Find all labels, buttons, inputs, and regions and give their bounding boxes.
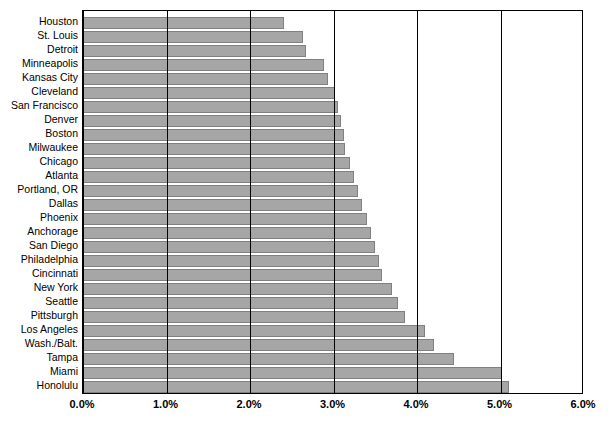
bar-cleveland[interactable] [83,87,335,99]
bar-chicago[interactable] [83,157,350,169]
category-label-dallas: Dallas [0,198,78,209]
x-tick-label-6.0%: 6.0% [570,398,595,410]
bar-row [83,73,582,85]
bar-dallas[interactable] [83,199,362,211]
bar-minneapolis[interactable] [83,59,324,71]
bar-row [83,157,582,169]
category-label-san-diego: San Diego [0,240,78,251]
category-axis-labels: HoustonSt. LouisDetroitMinneapolisKansas… [0,10,78,394]
bar-atlanta[interactable] [83,171,354,183]
bar-san-francisco[interactable] [83,101,338,113]
x-tick-label-3.0%: 3.0% [320,398,345,410]
bar-row [83,339,582,351]
category-label-cincinnati: Cincinnati [0,268,78,279]
bar-row [83,101,582,113]
category-label-denver: Denver [0,114,78,125]
bar-boston[interactable] [83,129,344,141]
value-axis-labels: 0.0%1.0%2.0%3.0%4.0%5.0%6.0% [0,398,610,418]
bar-detroit[interactable] [83,45,306,57]
bar-row [83,87,582,99]
bar-row [83,297,582,309]
bar-row [83,367,582,379]
x-tick-label-5.0%: 5.0% [487,398,512,410]
category-label-new-york: New York [0,282,78,293]
category-label-tampa: Tampa [0,352,78,363]
bar-denver[interactable] [83,115,341,127]
bar-chart: HoustonSt. LouisDetroitMinneapolisKansas… [0,0,610,426]
category-label-st-louis: St. Louis [0,30,78,41]
bar-st-louis[interactable] [83,31,303,43]
bar-seattle[interactable] [83,297,398,309]
bar-row [83,185,582,197]
bar-row [83,381,582,393]
category-label-miami: Miami [0,366,78,377]
bar-tampa[interactable] [83,353,454,365]
bar-row [83,213,582,225]
category-label-phoenix: Phoenix [0,212,78,223]
category-label-cleveland: Cleveland [0,86,78,97]
bar-row [83,311,582,323]
bar-philadelphia[interactable] [83,255,379,267]
bar-wash-balt[interactable] [83,339,434,351]
category-label-philadelphia: Philadelphia [0,254,78,265]
bar-row [83,143,582,155]
bar-kansas-city[interactable] [83,73,328,85]
category-label-houston: Houston [0,16,78,27]
bar-houston[interactable] [83,17,284,29]
category-label-wash-balt: Wash./Balt. [0,338,78,349]
bar-row [83,31,582,43]
bar-row [83,59,582,71]
bar-milwaukee[interactable] [83,143,345,155]
bar-row [83,227,582,239]
bar-san-diego[interactable] [83,241,375,253]
category-label-pittsburgh: Pittsburgh [0,310,78,321]
category-label-milwaukee: Milwaukee [0,142,78,153]
bars-layer [83,11,582,393]
bar-miami[interactable] [83,367,502,379]
bar-portland-or[interactable] [83,185,358,197]
bar-row [83,115,582,127]
x-tick-label-0.0%: 0.0% [69,398,94,410]
bar-cincinnati[interactable] [83,269,382,281]
category-label-detroit: Detroit [0,44,78,55]
bar-row [83,199,582,211]
category-label-los-angeles: Los Angeles [0,324,78,335]
bar-row [83,269,582,281]
category-label-boston: Boston [0,128,78,139]
category-label-seattle: Seattle [0,296,78,307]
bar-row [83,283,582,295]
bar-row [83,325,582,337]
category-label-kansas-city: Kansas City [0,72,78,83]
bar-row [83,255,582,267]
category-label-san-francisco: San Francisco [0,100,78,111]
plot-area [82,10,583,394]
bar-row [83,171,582,183]
category-label-anchorage: Anchorage [0,226,78,237]
bar-new-york[interactable] [83,283,392,295]
bar-los-angeles[interactable] [83,325,425,337]
bar-row [83,353,582,365]
category-label-minneapolis: Minneapolis [0,58,78,69]
category-label-chicago: Chicago [0,156,78,167]
x-tick-label-2.0%: 2.0% [236,398,261,410]
bar-phoenix[interactable] [83,213,367,225]
bar-row [83,241,582,253]
category-label-honolulu: Honolulu [0,380,78,391]
bar-row [83,45,582,57]
bar-honolulu[interactable] [83,381,509,393]
category-label-atlanta: Atlanta [0,170,78,181]
bar-row [83,129,582,141]
bar-row [83,17,582,29]
x-tick-label-1.0%: 1.0% [153,398,178,410]
bar-pittsburgh[interactable] [83,311,405,323]
x-tick-label-4.0%: 4.0% [403,398,428,410]
bar-anchorage[interactable] [83,227,371,239]
category-label-portland-or: Portland, OR [0,184,78,195]
